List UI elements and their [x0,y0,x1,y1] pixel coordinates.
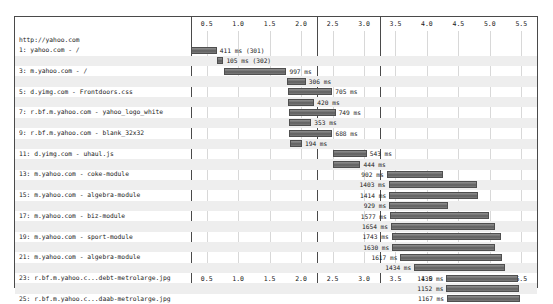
bar-duration-label: 1654 ms [362,222,388,231]
table-row[interactable]: 194 ms [15,139,537,149]
waterfall-bar[interactable] [400,254,502,261]
table-row[interactable]: 1743 ms [15,232,537,242]
axis-tick-top-5.5: 5.5 [515,18,527,31]
table-row[interactable]: 1630 ms [15,242,537,252]
waterfall-bar[interactable] [389,192,478,199]
bar-duration-label: 1167 ms [418,294,444,303]
bar-duration-label: 1577 ms [361,212,387,221]
bar-duration-label: 1630 ms [363,243,389,252]
waterfall-bar[interactable] [446,275,517,282]
bar-duration-label: 705 ms [335,87,357,96]
waterfall-bar[interactable] [289,130,332,137]
bar-duration-label: 997 ms [289,67,311,76]
waterfall-bar[interactable] [224,68,287,75]
bar-duration-label: 444 ms [363,160,385,169]
bar-duration-label: 1403 ms [359,180,385,189]
waterfall-bar[interactable] [390,212,489,219]
table-row[interactable]: 1167 ms [15,294,537,304]
waterfall-bar[interactable] [288,88,332,95]
bar-duration-label: 353 ms [314,118,336,127]
axis-tick-top-1.0: 1.0 [232,18,244,31]
table-row[interactable]: 444 ms [15,159,537,169]
bar-duration-label: 1152 ms [417,284,443,293]
table-row[interactable]: 306 ms [15,76,537,86]
table-row[interactable]: 411 ms (301) [15,45,537,55]
axis-top: 0.51.01.52.02.53.03.54.04.55.05.5 [15,18,539,31]
bar-duration-label: 105 ms (302) [226,56,271,65]
waterfall-bar[interactable] [389,202,447,209]
waterfall-bar[interactable] [333,150,367,157]
axis-tick-top-3.0: 3.0 [358,18,370,31]
bar-duration-label: 1135 ms [417,274,443,283]
table-row[interactable]: 902 ms [15,170,537,180]
waterfall-bar[interactable] [217,57,224,64]
waterfall-bar[interactable] [288,99,314,106]
table-row[interactable]: 705 ms [15,87,537,97]
table-row[interactable]: 420 ms [15,97,537,107]
waterfall-bar[interactable] [333,161,361,168]
axis-tick-top-2.5: 2.5 [327,18,339,31]
table-row[interactable]: 997 ms [15,66,537,76]
table-row[interactable]: 1403 ms [15,180,537,190]
waterfall-bar[interactable] [414,264,504,271]
table-row[interactable]: 688 ms [15,128,537,138]
axis-tick-top-1.5: 1.5 [264,18,276,31]
bar-duration-label: 1617 ms [371,253,397,262]
table-row[interactable]: 1135 ms [15,273,537,283]
axis-tick-top-0.5: 0.5 [201,18,213,31]
bar-duration-label: 420 ms [317,98,339,107]
waterfall-bar[interactable] [392,244,495,251]
axis-tick-top-4.0: 4.0 [421,18,433,31]
bar-duration-label: 411 ms (301) [220,46,265,55]
waterfall-bar[interactable] [391,223,495,230]
waterfall-bar[interactable] [287,78,306,85]
bar-rows: 411 ms (301)105 ms (302)997 ms306 ms705 … [15,31,537,273]
bar-duration-label: 1743 ms [363,232,389,241]
axis-tick-top-2.0: 2.0 [295,18,307,31]
bar-duration-label: 306 ms [309,77,331,86]
waterfall-bar[interactable] [290,140,302,147]
waterfall-bar[interactable] [289,109,336,116]
table-row[interactable]: 749 ms [15,107,537,117]
table-row[interactable]: 1434 ms [15,263,537,273]
waterfall-bar[interactable] [191,47,217,54]
bar-duration-label: 1414 ms [360,191,386,200]
bar-duration-label: 749 ms [339,108,361,117]
waterfall-bar[interactable] [446,285,518,292]
table-row[interactable]: 1654 ms [15,221,537,231]
table-row[interactable]: 1414 ms [15,190,537,200]
bar-duration-label: 543 ms [370,149,392,158]
bar-duration-label: 1434 ms [385,263,411,272]
bar-duration-label: 902 ms [361,170,383,179]
table-row[interactable]: 929 ms [15,201,537,211]
axis-tick-top-3.5: 3.5 [390,18,402,31]
bar-duration-label: 194 ms [305,139,327,148]
waterfall-bar[interactable] [392,233,502,240]
bar-duration-label: 929 ms [364,201,386,210]
waterfall-chart: 0.51.01.52.02.53.03.54.04.55.05.5 0.51.0… [0,0,553,304]
waterfall-bar[interactable] [289,119,311,126]
table-row[interactable]: 353 ms [15,118,537,128]
waterfall-bar[interactable] [447,295,520,302]
table-row[interactable]: 1577 ms [15,211,537,221]
table-row[interactable]: 1152 ms [15,283,537,293]
bar-duration-label: 688 ms [335,129,357,138]
waterfall-bar[interactable] [389,181,477,188]
table-row[interactable]: 105 ms (302) [15,56,537,66]
chart-frame: 0.51.01.52.02.53.03.54.04.55.05.5 0.51.0… [14,16,538,288]
table-row[interactable]: 1617 ms [15,252,537,262]
axis-tick-top-5.0: 5.0 [484,18,496,31]
waterfall-bar[interactable] [387,171,444,178]
table-row[interactable]: 543 ms [15,149,537,159]
axis-tick-top-4.5: 4.5 [452,18,464,31]
